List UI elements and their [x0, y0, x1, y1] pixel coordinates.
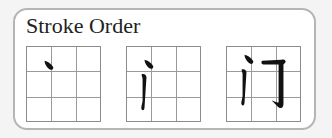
- stroke-dot-vertical-icon: [127, 47, 200, 121]
- stroke-frame-2: [126, 46, 201, 122]
- panel-title: Stroke Order: [26, 13, 140, 39]
- stroke-complete-character-icon: [227, 47, 300, 121]
- stroke-order-panel: Stroke Order: [13, 8, 316, 130]
- stroke-dot-icon: [27, 47, 100, 121]
- stroke-frame-1: [26, 46, 101, 122]
- stroke-frame-3: [226, 46, 301, 122]
